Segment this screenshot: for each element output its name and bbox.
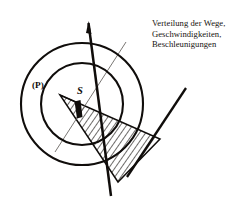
figure-caption: Verteilung der Wege, Geschwindigkeiten, … bbox=[152, 18, 243, 50]
line-primary-tip bbox=[86, 21, 92, 34]
caption-line-1: Verteilung der Wege, bbox=[152, 18, 243, 29]
label-point-p: (P) bbox=[32, 80, 44, 90]
label-center-s: S bbox=[77, 85, 83, 96]
figure-container: (P) S Verteilung der Wege, Geschwindigke… bbox=[0, 0, 243, 212]
wedge-polygon bbox=[60, 95, 160, 182]
caption-line-3: Beschleunigungen bbox=[152, 39, 243, 50]
hatched-wedge bbox=[60, 95, 160, 182]
caption-line-2: Geschwindigkeiten, bbox=[152, 29, 243, 40]
